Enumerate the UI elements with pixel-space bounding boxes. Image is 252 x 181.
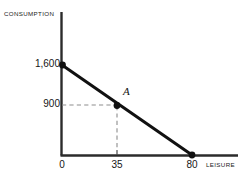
- y-axis-title: CONSUMPTION: [4, 11, 54, 17]
- x-tick-label-80: 80: [180, 160, 204, 170]
- x-tick-label-0: 0: [50, 160, 74, 170]
- point-a-annotation: A: [123, 86, 130, 97]
- budget-constraint-line: [62, 65, 192, 155]
- y-tick-label-900: 900: [43, 99, 60, 109]
- data-point-a: [114, 102, 121, 109]
- data-point-y-intercept: [59, 62, 66, 69]
- budget-constraint-chart: CONSUMPTION LEISURE 1,600 900 0 35 80 A: [0, 0, 252, 181]
- x-axis-title: LEISURE: [206, 162, 235, 168]
- data-point-x-intercept: [189, 152, 196, 159]
- y-tick-label-1600: 1,600: [35, 59, 60, 69]
- x-tick-label-35: 35: [105, 160, 129, 170]
